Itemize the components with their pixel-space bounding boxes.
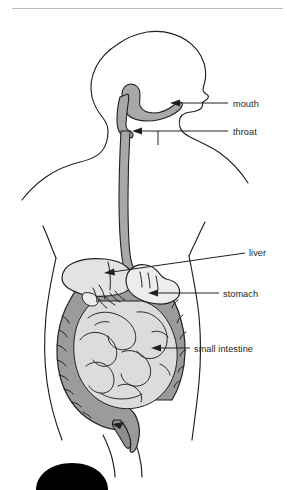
label-stomach: stomach [223, 289, 258, 299]
label-throat: throat [233, 127, 257, 137]
digestive-system-figure: Human digestive system diagram Side-prof… [0, 0, 287, 490]
label-mouth: mouth [233, 99, 259, 109]
label-small-intestine: small intestine [194, 344, 253, 354]
bottom-dark-shape [36, 463, 108, 490]
liver-shape [62, 259, 133, 297]
throat-arrow-head [132, 128, 142, 135]
esophagus-shape [119, 131, 136, 272]
figure-page: Human digestive system diagram Side-prof… [0, 0, 287, 490]
right-arm-inner-line [189, 222, 205, 256]
label-liver: liver [249, 248, 266, 258]
upper-digestive-tract-group [117, 84, 182, 272]
left-arm-inner-line [43, 226, 56, 258]
pelvis-outline [103, 435, 115, 477]
labels-group: mouth throat liver stomach small intesti… [194, 99, 266, 354]
